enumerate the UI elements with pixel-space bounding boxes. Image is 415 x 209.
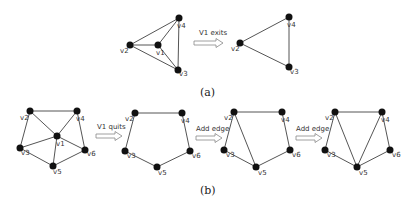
edge-v2-v4 xyxy=(240,17,289,43)
node-label-v3: v3 xyxy=(21,149,30,157)
node-label-v1: v1 xyxy=(56,140,65,148)
arrow-label: V1 quits xyxy=(97,123,126,131)
node-label-v4: v4 xyxy=(381,116,390,124)
node-label-v2: v2 xyxy=(224,114,233,122)
node-v1 xyxy=(155,42,162,49)
edge-v4-v5 xyxy=(357,112,382,167)
caption-b: (b) xyxy=(200,184,216,197)
node-label-v1: v1 xyxy=(156,49,165,57)
node-label-v6: v6 xyxy=(292,151,301,159)
edge-v1-v4 xyxy=(158,18,179,45)
edge-v2-v5 xyxy=(234,112,256,167)
right-arrow-icon xyxy=(96,132,122,141)
graph-diagram: v4v2v1v3v4v2v3v2v4v1v3v6v5v2v4v3v6v5v2v4… xyxy=(0,0,415,209)
caption-a: (a) xyxy=(200,86,215,99)
node-v4 xyxy=(74,108,81,115)
node-label-v3: v3 xyxy=(327,151,336,159)
node-label-v3: v3 xyxy=(226,151,235,159)
graph-b-4: v2v4v3v6v5 xyxy=(322,109,402,178)
graph-a-before: v4v2v1v3 xyxy=(120,15,188,79)
node-label-v3: v3 xyxy=(179,70,188,78)
node-v1 xyxy=(54,133,61,140)
node-label-v4: v4 xyxy=(281,116,290,124)
edge-v4-v1 xyxy=(57,111,77,136)
node-label-v5: v5 xyxy=(359,169,368,177)
node-label-v6: v6 xyxy=(392,151,401,159)
arrow-add-edge-2: Add edge xyxy=(296,125,329,143)
node-label-v4: v4 xyxy=(181,117,190,125)
node-label-v4: v4 xyxy=(76,115,85,123)
arrow-add-edge-1: Add edge xyxy=(196,125,229,143)
graph-b-3: v2v4v3v6v5 xyxy=(221,109,302,178)
edge-v6-v5 xyxy=(357,150,390,167)
arrow-v1-quits: V1 quits xyxy=(96,123,126,141)
node-label-v4: v4 xyxy=(287,21,296,29)
graph-b-2: v2v4v3v6v5 xyxy=(122,110,202,178)
edge-v2-v1 xyxy=(30,111,57,136)
right-arrow-icon xyxy=(194,39,223,48)
node-v4 xyxy=(379,109,386,116)
edge-v2-v5 xyxy=(335,112,357,167)
node-label-v2: v2 xyxy=(125,115,134,123)
node-label-v6: v6 xyxy=(87,150,96,158)
arrow-label: Add edge xyxy=(196,125,229,133)
right-arrow-icon xyxy=(296,134,322,143)
edge-v5-v6 xyxy=(53,150,85,166)
node-label-v4: v4 xyxy=(177,22,186,30)
node-v4 xyxy=(179,110,186,117)
node-v4 xyxy=(286,14,293,21)
arrow-label: Add edge xyxy=(296,125,329,133)
node-label-v5: v5 xyxy=(258,169,267,177)
node-v4 xyxy=(176,15,183,22)
node-label-v5: v5 xyxy=(158,169,167,177)
right-arrow-icon xyxy=(196,134,222,143)
edge-v1-v3 xyxy=(20,136,57,148)
edge-v2-v3 xyxy=(240,43,289,67)
arrow-label: V1 exits xyxy=(199,29,227,37)
node-label-v2: v2 xyxy=(120,47,129,55)
node-label-v2: v2 xyxy=(231,45,240,53)
node-label-v2: v2 xyxy=(325,114,334,122)
edge-v6-v5 xyxy=(256,150,290,167)
edge-v2-v3 xyxy=(130,45,178,70)
graph-a-after: v4v2v3 xyxy=(231,14,299,77)
node-label-v6: v6 xyxy=(192,152,201,160)
node-label-v3: v3 xyxy=(127,152,136,160)
node-label-v3: v3 xyxy=(290,68,299,76)
node-label-v5: v5 xyxy=(53,168,62,176)
node-v4 xyxy=(279,109,286,116)
edge-v6-v5 xyxy=(157,151,190,167)
arrow-v1-exits: V1 exits xyxy=(194,29,227,48)
edge-v2-v4 xyxy=(130,18,179,45)
node-label-v2: v2 xyxy=(20,114,29,122)
graph-b-1: v2v4v1v3v6v5 xyxy=(17,108,97,177)
